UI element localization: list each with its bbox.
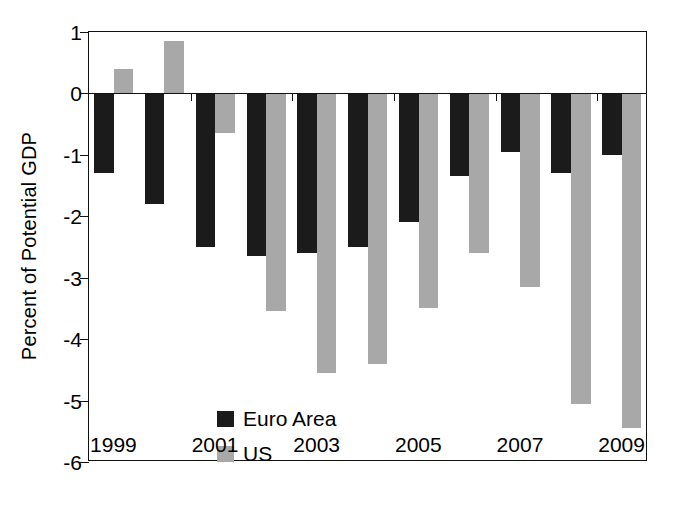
bar-us-1999	[114, 69, 134, 94]
y-tick-label: -5	[63, 390, 82, 411]
y-tick-label: 1	[70, 22, 82, 43]
bar-euro-area-2006	[450, 93, 470, 176]
bar-us-2009	[622, 93, 642, 428]
bar-us-2005	[419, 93, 439, 308]
legend-label: Euro Area	[243, 408, 336, 429]
legend-item: Euro Area	[217, 408, 336, 429]
bar-euro-area-2003	[297, 93, 317, 253]
bar-us-2004	[368, 93, 388, 363]
bar-us-2006	[469, 93, 489, 253]
y-tick-label: -1	[63, 144, 82, 165]
bar-euro-area-2008	[551, 93, 571, 173]
x-tick-mark	[394, 93, 395, 101]
chart-figure: Percent of Potential GDP 10-1-2-3-4-5-6 …	[0, 0, 678, 525]
x-tick-label: 2007	[497, 434, 544, 455]
x-tick-mark	[292, 93, 293, 101]
x-tick-label: 2009	[598, 434, 645, 455]
plot-area: 10-1-2-3-4-5-6 Euro AreaUS	[88, 31, 647, 461]
y-tick-label: -6	[63, 452, 82, 473]
y-tick-label: -3	[63, 267, 82, 288]
legend-swatch-icon	[217, 411, 234, 427]
y-tick-label: -2	[63, 206, 82, 227]
zero-baseline	[89, 93, 646, 94]
legend-label: US	[243, 443, 272, 464]
x-tick-label: 2003	[293, 434, 340, 455]
bar-us-2003	[317, 93, 337, 373]
x-tick-label: 2005	[395, 434, 442, 455]
bar-us-2001	[215, 93, 235, 133]
x-tick-label: 2001	[192, 434, 239, 455]
bar-us-2002	[266, 93, 286, 311]
bar-euro-area-2001	[196, 93, 216, 247]
bar-euro-area-2007	[501, 93, 521, 151]
x-tick-mark	[597, 93, 598, 101]
bar-euro-area-2004	[348, 93, 368, 247]
y-tick-label: 0	[70, 83, 82, 104]
bar-us-2007	[520, 93, 540, 287]
bar-euro-area-2002	[247, 93, 267, 256]
y-axis-title: Percent of Potential GDP	[12, 31, 46, 461]
x-tick-mark	[496, 93, 497, 101]
x-tick-label: 1999	[90, 434, 137, 455]
bar-euro-area-2009	[602, 93, 622, 154]
x-tick-mark	[191, 93, 192, 101]
bar-us-2008	[571, 93, 591, 403]
bar-us-2000	[164, 41, 184, 93]
bar-euro-area-1999	[94, 93, 114, 173]
y-tick-label: -4	[63, 329, 82, 350]
bar-euro-area-2005	[399, 93, 419, 222]
bar-euro-area-2000	[145, 93, 165, 204]
